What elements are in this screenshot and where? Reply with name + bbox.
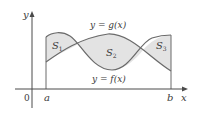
y-axis-arrow-icon — [30, 11, 35, 17]
x-axis-arrow-icon — [182, 87, 188, 92]
origin-label: 0 — [24, 93, 30, 103]
diagram-canvas: y x 0 a b y = g(x) y = f(x) S1 S2 S3 — [0, 0, 197, 117]
curve-g-label: y = g(x) — [89, 20, 127, 30]
y-axis-label: y — [22, 9, 29, 20]
curve-f-label: y = f(x) — [91, 74, 126, 84]
interval-end-label: b — [167, 92, 173, 103]
interval-start-label: a — [44, 92, 50, 103]
area-between-curves-diagram: y x 0 a b y = g(x) y = f(x) S1 S2 S3 — [0, 0, 197, 117]
x-axis-label: x — [181, 92, 187, 103]
